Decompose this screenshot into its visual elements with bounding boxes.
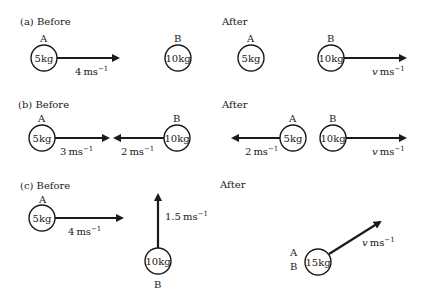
velocity-label-a-after: 2ms−1 — [245, 145, 278, 157]
ball-b-label: B — [154, 279, 161, 290]
ball-b-after-label: B — [327, 33, 334, 44]
combined-label-b: B — [290, 261, 297, 272]
ball-b-mass: 10kg — [145, 256, 171, 267]
ball-b-after-label: B — [329, 113, 336, 124]
ball-a-mass: 5kg — [35, 53, 54, 64]
ball-a-mass: 5kg — [33, 133, 52, 144]
ball-a-mass: 5kg — [33, 213, 52, 224]
ball-b-after-mass: 10kg — [318, 53, 344, 64]
section-b-before-title: (b) Before — [18, 99, 69, 110]
ball-b-label: B — [173, 113, 180, 124]
combined-label-a: A — [289, 247, 298, 258]
velocity-label-b-after: vms−1 — [372, 65, 405, 77]
ball-a-label: A — [39, 33, 48, 44]
ball-a-label: A — [37, 113, 46, 124]
section-a: (a) Before A 5kg 4ms−1 B 10kg After A 5k… — [20, 16, 405, 77]
velocity-label-a: 4ms−1 — [75, 65, 108, 77]
velocity-label-a: 4ms−1 — [68, 225, 101, 237]
ball-a-after-mass: 5kg — [242, 53, 261, 64]
ball-a-after-mass: 5kg — [284, 133, 303, 144]
velocity-label-b: 2ms−1 — [121, 145, 154, 157]
ball-b-mass: 10kg — [164, 133, 190, 144]
ball-a-label: A — [38, 194, 47, 205]
combined-ball-mass: 15kg — [305, 257, 331, 268]
section-a-before-title: (a) Before — [20, 16, 71, 27]
section-c: (c) Before A 5kg 4ms−1 1.5ms−1 10kg B Af… — [20, 179, 395, 290]
section-b: (b) Before A 5kg 3ms−1 2ms−1 B 10kg Afte… — [18, 99, 405, 157]
velocity-label-combined: vms−1 — [362, 236, 395, 248]
ball-b-after-mass: 10kg — [320, 133, 346, 144]
velocity-label-a: 3ms−1 — [60, 145, 93, 157]
velocity-label-b: 1.5ms−1 — [165, 210, 208, 222]
section-b-after-title: After — [221, 99, 248, 110]
section-a-after-title: After — [221, 16, 248, 27]
ball-a-after-label: A — [288, 113, 297, 124]
velocity-label-b-after: vms−1 — [372, 145, 405, 157]
collision-diagram: (a) Before A 5kg 4ms−1 B 10kg After A 5k… — [0, 0, 425, 297]
ball-b-mass: 10kg — [165, 53, 191, 64]
ball-a-after-label: A — [246, 33, 255, 44]
ball-b-label: B — [174, 33, 181, 44]
section-c-before-title: (c) Before — [20, 180, 70, 191]
section-c-after-title: After — [219, 179, 246, 190]
